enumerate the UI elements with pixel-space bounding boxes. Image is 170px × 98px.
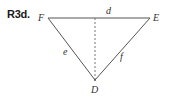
side-label-d: d <box>106 5 112 16</box>
vertex-label-d: D <box>90 84 99 95</box>
vertex-label-f: F <box>37 12 45 23</box>
side-label-f: f <box>120 51 124 62</box>
triangle-diagram: F E D d e f <box>0 0 170 98</box>
vertex-label-e: E <box>152 12 159 23</box>
side-label-e: e <box>63 46 68 57</box>
vertex-d-dot <box>94 79 96 81</box>
